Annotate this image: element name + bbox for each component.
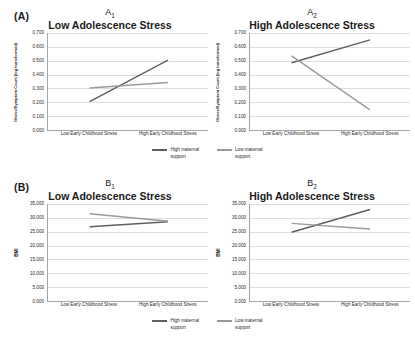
chart-a2-x-labels: Low Early Childhood Stress High Early Ch…: [249, 132, 410, 141]
chart-b1-y-tick-0: 0.000: [33, 300, 45, 305]
chart-a1-x-label-0: Low Early Childhood Stress: [61, 132, 117, 137]
legend-item-low-maternal-support: Low maternal support: [217, 147, 263, 160]
chart-a1-plot-area: Illness/Symptom Count (log transformed) …: [10, 33, 210, 141]
chart-b2-series-lines: [250, 204, 410, 301]
chart-a1-line-low-maternal-support: [90, 82, 168, 88]
chart-b1-x-label-1: High Early Childhood Stress: [139, 303, 196, 308]
panel-a: (A) A1 Low Adolescence Stress Illness/Sy…: [0, 0, 415, 171]
chart-a1-x-labels: Low Early Childhood Stress High Early Ch…: [47, 132, 208, 141]
legend-item-high-maternal-support-b: High maternal support: [152, 318, 199, 331]
chart-b2-line-low-maternal-support: [292, 223, 370, 229]
chart-b1-x-label-0: Low Early Childhood Stress: [61, 303, 117, 308]
chart-a2: A2 High Adolescence Stress Illness/Sympt…: [212, 0, 412, 152]
chart-a2-x-label-1: High Early Childhood Stress: [341, 132, 398, 137]
chart-b1-y-tick-2: 10.000: [30, 272, 44, 277]
panel-a-legend: High maternal support Low maternal suppo…: [0, 147, 415, 160]
chart-b1-plot-area: BMI 0.0005.00010.00015.00020.00025.00030…: [10, 204, 210, 312]
chart-b1-y-tick-5: 25.000: [30, 230, 44, 235]
chart-b1-y-tick-4: 20.000: [30, 244, 44, 249]
chart-b2-plot-area: BMI 0.0005.00010.00015.00020.00025.00030…: [212, 204, 412, 312]
chart-a1-series-lines: [48, 33, 208, 130]
legend-label-high-b: High maternal support: [170, 318, 199, 331]
chart-a2-line-low-maternal-support: [292, 56, 370, 110]
legend-line-icon-low: [217, 149, 232, 151]
chart-b1-line-low-maternal-support: [90, 214, 168, 221]
chart-a2-y-tick-2: 0.200: [235, 101, 247, 106]
chart-a1-y-tick-6: 0.600: [33, 45, 45, 50]
chart-a1-y-ticks: 0.0000.1000.2000.3000.4000.5000.6000.700: [20, 33, 46, 131]
chart-a2-sublabel-index: 2: [313, 12, 317, 19]
chart-b1-y-tick-3: 15.000: [30, 258, 44, 263]
chart-b2: B2 High Adolescence Stress BMI 0.0005.00…: [212, 171, 412, 323]
chart-a2-x-label-0: Low Early Childhood Stress: [263, 132, 319, 137]
legend-item-low-maternal-support-b: Low maternal support: [217, 318, 263, 331]
panel-b-legend: High maternal support Low maternal suppo…: [0, 318, 415, 331]
chart-a1-y-tick-5: 0.500: [33, 59, 45, 64]
legend-label-high: High maternal support: [170, 147, 199, 160]
chart-a1-x-label-1: High Early Childhood Stress: [139, 132, 196, 137]
chart-b2-y-tick-4: 20.000: [232, 244, 246, 249]
chart-a1-y-tick-4: 0.400: [33, 73, 45, 78]
chart-a1-y-tick-2: 0.200: [33, 101, 45, 106]
chart-a1-sublabel: A1: [10, 8, 210, 19]
legend-line-icon-low-b: [217, 320, 232, 322]
chart-b2-sublabel: B2: [212, 179, 412, 190]
chart-b1-y-tick-1: 5.000: [33, 286, 45, 291]
chart-a1-line-high-maternal-support: [90, 60, 168, 102]
chart-b2-plot: [249, 204, 410, 302]
chart-a2-y-tick-4: 0.400: [235, 73, 247, 78]
chart-b2-x-label-0: Low Early Childhood Stress: [263, 303, 319, 308]
chart-a1: A1 Low Adolescence Stress Illness/Sympto…: [10, 0, 210, 152]
legend-line-icon-high-b: [152, 320, 167, 322]
chart-a2-y-tick-0: 0.000: [235, 129, 247, 134]
figure-container: (A) A1 Low Adolescence Stress Illness/Sy…: [0, 0, 415, 343]
legend-line-icon-high: [152, 149, 167, 151]
chart-a1-y-tick-3: 0.300: [33, 87, 45, 92]
legend-label-low-b: Low maternal support: [235, 318, 263, 331]
chart-a2-y-tick-7: 0.700: [235, 31, 247, 36]
chart-b2-x-label-1: High Early Childhood Stress: [341, 303, 398, 308]
chart-a2-series-lines: [250, 33, 410, 130]
chart-a2-y-ticks: 0.0000.1000.2000.3000.4000.5000.6000.700: [222, 33, 248, 131]
chart-b1-series-lines: [48, 204, 208, 301]
chart-b2-y-ticks: 0.0005.00010.00015.00020.00025.00030.000…: [222, 204, 248, 302]
chart-b1-y-tick-7: 35.000: [30, 202, 44, 207]
chart-b2-y-tick-7: 35.000: [232, 202, 246, 207]
chart-b2-y-tick-2: 10.000: [232, 272, 246, 277]
chart-a2-plot: [249, 33, 410, 131]
chart-a2-plot-area: Illness/Symptom Count (log transformed) …: [212, 33, 412, 141]
chart-b2-x-labels: Low Early Childhood Stress High Early Ch…: [249, 303, 410, 312]
chart-b2-y-tick-6: 30.000: [232, 216, 246, 221]
chart-b1-y-tick-6: 30.000: [30, 216, 44, 221]
chart-b2-y-tick-3: 15.000: [232, 258, 246, 263]
chart-b1-x-labels: Low Early Childhood Stress High Early Ch…: [47, 303, 208, 312]
chart-b2-line-high-maternal-support: [292, 210, 370, 233]
legend-item-high-maternal-support: High maternal support: [152, 147, 199, 160]
chart-a2-y-tick-6: 0.600: [235, 45, 247, 50]
chart-b2-sublabel-index: 2: [313, 183, 317, 190]
panel-b: (B) B1 Low Adolescence Stress BMI 0.0005…: [0, 171, 415, 342]
legend-label-low: Low maternal support: [235, 147, 263, 160]
chart-b1-y-ticks: 0.0005.00010.00015.00020.00025.00030.000…: [20, 204, 46, 302]
chart-a1-y-tick-0: 0.000: [33, 129, 45, 134]
chart-a2-y-tick-3: 0.300: [235, 87, 247, 92]
chart-b1-plot: [47, 204, 208, 302]
chart-a1-y-tick-1: 0.100: [33, 115, 45, 120]
chart-b1-line-high-maternal-support: [90, 222, 168, 227]
chart-a1-plot: [47, 33, 208, 131]
chart-a2-sublabel: A2: [212, 8, 412, 19]
chart-a2-line-high-maternal-support: [292, 40, 370, 63]
chart-a1-y-tick-7: 0.700: [33, 31, 45, 36]
chart-b1: B1 Low Adolescence Stress BMI 0.0005.000…: [10, 171, 210, 323]
chart-b2-y-tick-1: 5.000: [235, 286, 247, 291]
chart-b1-sublabel: B1: [10, 179, 210, 190]
chart-b2-y-tick-5: 25.000: [232, 230, 246, 235]
chart-a2-y-tick-5: 0.500: [235, 59, 247, 64]
chart-a2-y-tick-1: 0.100: [235, 115, 247, 120]
chart-b2-y-tick-0: 0.000: [235, 300, 247, 305]
chart-b1-sublabel-index: 1: [111, 183, 115, 190]
chart-a1-sublabel-index: 1: [111, 12, 115, 19]
